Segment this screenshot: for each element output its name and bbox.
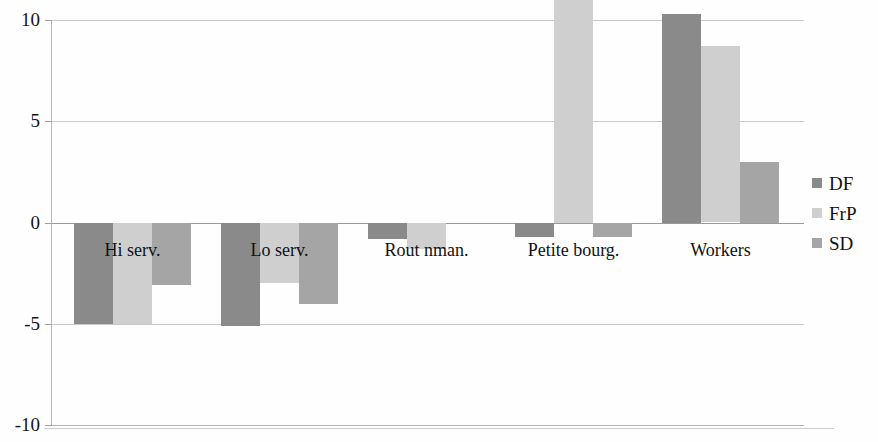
category-label-workers: Workers (642, 241, 799, 259)
category-label-rout-nman: Rout nman. (348, 241, 505, 259)
bar-df-workers (662, 14, 701, 223)
legend-label: FrP (829, 204, 856, 223)
bar-sd-petite-bourg (593, 223, 632, 237)
bar-frp-hi-serv (113, 223, 152, 324)
y-tick-label: -5 (24, 314, 40, 333)
y-tick-mark (45, 223, 52, 224)
y-tick-label: -10 (15, 415, 40, 434)
legend-item-frp[interactable]: FrP (812, 198, 878, 228)
y-tick-label: 10 (21, 10, 40, 29)
legend-label: SD (829, 234, 853, 253)
category-label-lo-serv: Lo serv. (201, 241, 358, 259)
y-tick-mark (45, 121, 52, 122)
figure-baseline (44, 428, 834, 429)
legend-item-sd[interactable]: SD (812, 228, 878, 258)
y-tick-label: 5 (31, 111, 41, 130)
y-tick-mark (45, 425, 52, 426)
legend-item-df[interactable]: DF (812, 168, 878, 198)
bar-frp-petite-bourg (554, 0, 593, 223)
bar-df-hi-serv (74, 223, 113, 324)
legend-swatch-icon (812, 238, 822, 248)
y-tick-mark (45, 20, 52, 21)
plot-area (51, 20, 804, 425)
y-tick-label: 0 (31, 213, 41, 232)
bar-df-petite-bourg (515, 223, 554, 237)
category-label-hi-serv: Hi serv. (54, 241, 211, 259)
y-tick-mark (45, 324, 52, 325)
category-label-petite-bourg: Petite bourg. (495, 241, 652, 259)
legend-swatch-icon (812, 208, 822, 218)
bar-df-rout-nman (368, 223, 407, 239)
bar-chart: 1050-5-10 DFFrPSD Hi serv.Lo serv.Rout n… (0, 0, 878, 442)
bar-sd-lo-serv (299, 223, 338, 304)
legend-swatch-icon (812, 178, 822, 188)
bar-sd-workers (740, 162, 779, 223)
bar-df-lo-serv (221, 223, 260, 326)
legend-label: DF (829, 174, 853, 193)
gridline-neg5 (51, 324, 804, 325)
gridline-neg10 (51, 425, 804, 426)
bar-frp-workers (701, 46, 740, 222)
legend: DFFrPSD (812, 168, 878, 258)
